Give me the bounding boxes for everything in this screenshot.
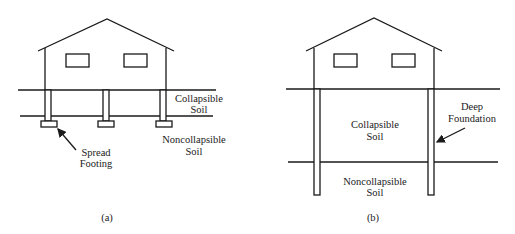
collapsible-soil-label-a-1: Collapsible bbox=[175, 93, 223, 104]
footing-2 bbox=[98, 121, 114, 127]
footing-1 bbox=[41, 121, 57, 127]
spread-footing-label-2: Footing bbox=[80, 158, 113, 169]
collapsible-soil-label-b-1: Collapsible bbox=[351, 119, 399, 130]
house-b bbox=[306, 18, 442, 89]
window-left-b bbox=[334, 54, 357, 67]
window-left-a bbox=[66, 54, 89, 67]
deep-foundation-arrow bbox=[437, 128, 465, 142]
house-a bbox=[38, 19, 174, 90]
roof-b bbox=[306, 18, 442, 51]
pile-left bbox=[314, 89, 320, 195]
window-right-b bbox=[392, 54, 415, 67]
deep-foundation-label-1: Deep bbox=[461, 101, 483, 112]
pile-right bbox=[428, 89, 434, 195]
roof-a bbox=[38, 19, 174, 51]
pier-2 bbox=[103, 90, 109, 121]
collapsible-soil-label-b-2: Soil bbox=[367, 131, 384, 142]
noncollapsible-soil-label-b-2: Soil bbox=[367, 187, 384, 198]
collapsible-soil-label-a-2: Soil bbox=[191, 104, 208, 115]
noncollapsible-soil-label-b-1: Noncollapsible bbox=[343, 176, 407, 187]
panel-a-caption: (a) bbox=[101, 212, 113, 224]
panel-b-deep-foundation: Collapsible Soil Noncollapsible Soil Dee… bbox=[286, 18, 500, 224]
pier-1 bbox=[45, 90, 51, 121]
footing-3 bbox=[156, 121, 172, 127]
pier-3 bbox=[160, 90, 166, 121]
foundation-diagram: Collapsible Soil Noncollapsible Soil Spr… bbox=[0, 0, 515, 234]
spread-footing-arrow bbox=[58, 129, 76, 150]
noncollapsible-soil-label-a-2: Soil bbox=[186, 146, 203, 157]
panel-b-caption: (b) bbox=[367, 212, 380, 224]
panel-a-spread-footing: Collapsible Soil Noncollapsible Soil Spr… bbox=[18, 19, 226, 224]
spread-footing-label-1: Spread bbox=[81, 147, 111, 158]
spread-footings bbox=[41, 121, 172, 127]
deep-foundation-label-2: Foundation bbox=[448, 113, 497, 124]
window-right-a bbox=[124, 54, 147, 67]
noncollapsible-soil-label-a-1: Noncollapsible bbox=[162, 134, 226, 145]
